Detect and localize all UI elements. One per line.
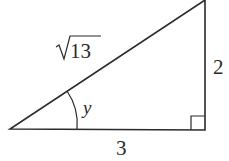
hypotenuse-label: 13	[70, 39, 91, 63]
angle-arc	[67, 91, 77, 129]
horizontal-side-label: 3	[116, 136, 127, 160]
angle-label: y	[81, 97, 92, 118]
triangle-diagram: 13 2 y 3	[0, 0, 229, 161]
triangle	[10, 0, 205, 130]
right-angle-marker	[191, 116, 205, 130]
vertical-side-label: 2	[213, 55, 224, 79]
